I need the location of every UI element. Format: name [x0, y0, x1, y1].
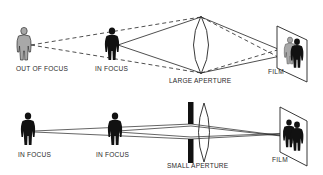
film-label-bottom: FILM: [272, 157, 288, 164]
bottom-panel-small-aperture: [21, 102, 307, 166]
large-aperture-label: LARGE APERTURE: [169, 78, 231, 85]
depth-of-field-diagram: OUT OF FOCUS IN FOCUS LARGE APERTURE FIL…: [0, 0, 323, 175]
film-label-top: FILM: [268, 69, 284, 76]
in-focus-label-bottom-left: IN FOCUS: [18, 152, 51, 159]
aperture-stop-icon: [188, 102, 194, 163]
small-aperture-label: SMALL APERTURE: [167, 163, 228, 170]
out-of-focus-figure-icon: [17, 27, 31, 60]
small-lens-icon: [199, 103, 210, 162]
out-of-focus-label: OUT OF FOCUS: [16, 66, 68, 73]
out-of-focus-rays: [31, 17, 284, 73]
diagram-canvas: [0, 0, 323, 175]
far-in-focus-figure-icon: [21, 112, 35, 145]
bottom-rays: [34, 124, 290, 139]
in-focus-label-bottom-mid: IN FOCUS: [96, 152, 129, 159]
near-in-focus-figure-icon: [108, 112, 122, 145]
in-focus-label-top: IN FOCUS: [95, 66, 128, 73]
large-lens-icon: [194, 16, 209, 74]
